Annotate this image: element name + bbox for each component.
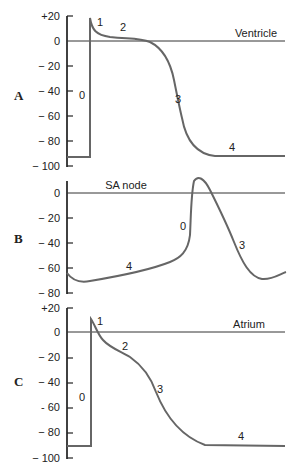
phase-4-label: 4 xyxy=(229,141,235,153)
panel-b-sa-node: 0 − 20 − 40 − 60 − 80 B SA node 0 3 4 xyxy=(14,178,286,299)
tick-label: +20 xyxy=(41,10,60,22)
phase-2-label: 2 xyxy=(120,21,126,33)
tick-label: − 20 xyxy=(38,60,60,72)
tick-label: 0 xyxy=(54,35,60,47)
action-potential-figure: +20 0 − 20 − 40 − 60 − 80 − 100 A Ventri… xyxy=(0,0,302,474)
tick-label: − 20 xyxy=(38,212,60,224)
tick-label: - 60 xyxy=(41,401,60,413)
atrium-trace xyxy=(67,319,285,446)
y-ticks xyxy=(67,218,73,293)
phase-0-label: 0 xyxy=(180,220,186,232)
y-ticks xyxy=(67,16,73,166)
tick-label: − 80 xyxy=(38,426,60,438)
tick-label: − 80 xyxy=(38,135,60,147)
phase-1-label: 1 xyxy=(97,16,103,28)
tick-label: − 80 xyxy=(38,287,60,299)
tick-label: − 40 xyxy=(38,376,60,388)
panel-label: C xyxy=(14,374,23,389)
sa-node-trace xyxy=(67,178,286,282)
tick-label: − 60 xyxy=(38,262,60,274)
tick-label: − 60 xyxy=(38,110,60,122)
phase-1-label: 1 xyxy=(97,315,103,327)
tick-label: − 100 xyxy=(32,452,60,464)
chart-title: SA node xyxy=(105,179,147,191)
phase-0-label: 0 xyxy=(79,89,85,101)
tick-label: 0 xyxy=(54,187,60,199)
panel-a-ventricle: +20 0 − 20 − 40 − 60 − 80 − 100 A Ventri… xyxy=(14,10,285,172)
tick-label: 0 xyxy=(54,326,60,338)
y-ticks xyxy=(67,308,73,458)
phase-2-label: 2 xyxy=(122,340,128,352)
tick-label: − 100 xyxy=(32,160,60,172)
panel-label: A xyxy=(14,88,24,103)
tick-label: +20 xyxy=(41,302,60,314)
chart-title: Ventricle xyxy=(235,27,277,39)
tick-label: − 40 xyxy=(38,85,60,97)
phase-3-label: 3 xyxy=(157,383,163,395)
phase-4-label: 4 xyxy=(126,260,132,272)
tick-label: − 40 xyxy=(38,237,60,249)
chart-title: Atrium xyxy=(233,318,265,330)
phase-3-label: 3 xyxy=(239,239,245,251)
phase-0-label: 0 xyxy=(79,391,85,403)
tick-label: − 20 xyxy=(38,351,60,363)
panel-label: B xyxy=(14,231,23,246)
panel-c-atrium: +20 0 − 20 − 40 - 60 − 80 − 100 C Atrium… xyxy=(14,302,285,464)
phase-3-label: 3 xyxy=(175,93,181,105)
phase-4-label: 4 xyxy=(238,430,244,442)
